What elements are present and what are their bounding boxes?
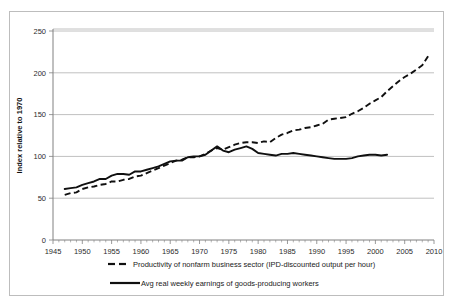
x-tick-label: 1950 bbox=[74, 247, 91, 256]
x-tick-label: 1965 bbox=[162, 247, 179, 256]
y-axis-title: Index relative to 1970 bbox=[15, 98, 24, 174]
x-tick-label: 1985 bbox=[279, 247, 296, 256]
series-line-earnings bbox=[65, 146, 387, 189]
x-tick-label: 1995 bbox=[338, 247, 355, 256]
chart-plot-area: 050100150200250 194519501955196019651970… bbox=[10, 12, 445, 297]
x-tick-label: 1975 bbox=[221, 247, 238, 256]
y-axis-ticks-group: 050100150200250 bbox=[33, 27, 53, 245]
x-tick-label: 2010 bbox=[426, 247, 443, 256]
x-axis-ticks-group: 1945195019551960196519701975198019851990… bbox=[45, 240, 443, 256]
figure-frame: 050100150200250 194519501955196019651970… bbox=[9, 11, 444, 296]
legend-label: Productivity of nonfarm business sector … bbox=[133, 260, 376, 269]
legend: Productivity of nonfarm business sector … bbox=[108, 260, 376, 288]
x-tick-label: 2005 bbox=[396, 247, 413, 256]
x-tick-label: 1955 bbox=[103, 247, 120, 256]
gridlines-group bbox=[53, 29, 434, 198]
x-tick-label: 1990 bbox=[308, 247, 325, 256]
y-tick-label: 0 bbox=[42, 236, 46, 245]
x-tick-label: 1960 bbox=[133, 247, 150, 256]
x-tick-label: 1970 bbox=[191, 247, 208, 256]
y-tick-label: 50 bbox=[38, 194, 46, 203]
legend-label: Avg real weekly earnings of goods-produc… bbox=[141, 279, 319, 288]
y-tick-label: 150 bbox=[33, 110, 46, 119]
cut-off-caption bbox=[0, 0, 453, 9]
y-tick-label: 100 bbox=[33, 152, 46, 161]
y-tick-label: 250 bbox=[33, 27, 46, 36]
x-tick-label: 2000 bbox=[367, 247, 384, 256]
line-chart-svg: 050100150200250 194519501955196019651970… bbox=[10, 12, 445, 297]
y-tick-label: 200 bbox=[33, 69, 46, 78]
x-tick-label: 1980 bbox=[250, 247, 267, 256]
x-tick-label: 1945 bbox=[45, 247, 62, 256]
